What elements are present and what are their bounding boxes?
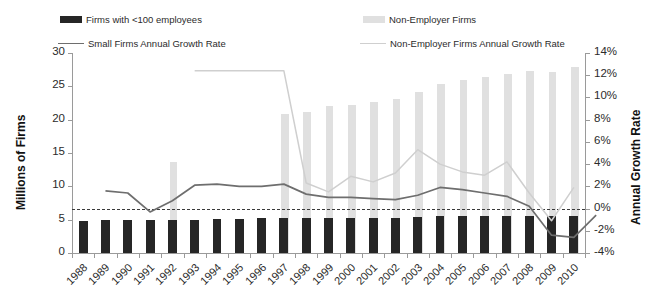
plot-area: 051015202530-4%-2%0%2%4%6%8%10%12%14%198… bbox=[0, 0, 651, 308]
line-small-firms-growth-rate bbox=[105, 184, 596, 237]
chart-figure: Firms with <100 employees Non-Employer F… bbox=[0, 0, 651, 308]
growth-rate-lines bbox=[0, 0, 651, 308]
